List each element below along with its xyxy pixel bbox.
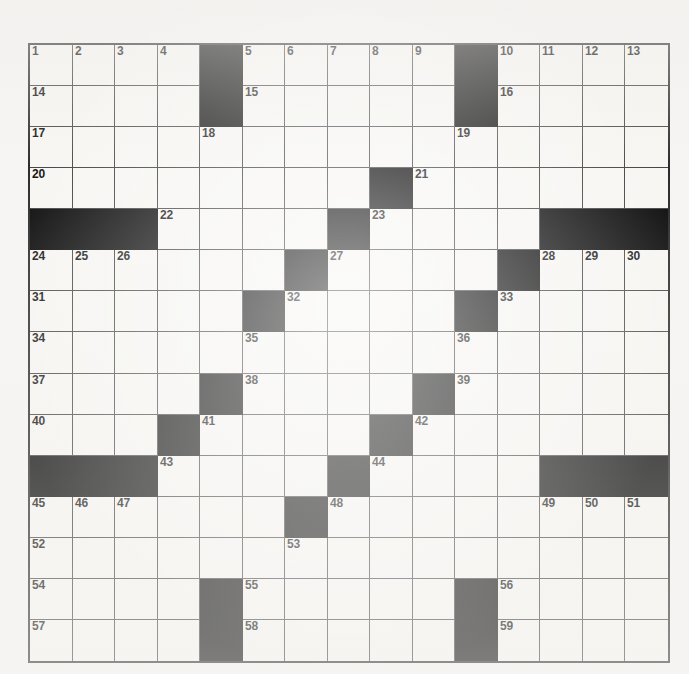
- grid-cell[interactable]: 16: [498, 86, 540, 127]
- grid-cell[interactable]: [158, 127, 200, 168]
- grid-cell[interactable]: [540, 127, 583, 168]
- grid-cell[interactable]: [243, 250, 285, 291]
- grid-cell[interactable]: [328, 579, 370, 620]
- grid-cell[interactable]: [285, 620, 328, 661]
- grid-cell[interactable]: 46: [73, 497, 115, 538]
- grid-cell[interactable]: [498, 538, 540, 579]
- grid-cell[interactable]: [498, 209, 540, 250]
- grid-cell[interactable]: [583, 538, 625, 579]
- grid-cell[interactable]: 18: [200, 127, 243, 168]
- grid-cell[interactable]: [540, 579, 583, 620]
- grid-cell[interactable]: [73, 415, 115, 456]
- grid-cell[interactable]: [455, 168, 498, 209]
- grid-cell[interactable]: [370, 579, 413, 620]
- grid-cell[interactable]: 4: [158, 45, 200, 86]
- grid-cell[interactable]: [540, 415, 583, 456]
- grid-cell[interactable]: [158, 291, 200, 332]
- grid-cell[interactable]: [413, 209, 455, 250]
- grid-cell[interactable]: 13: [625, 45, 668, 86]
- grid-cell[interactable]: [540, 620, 583, 661]
- grid-cell[interactable]: [243, 209, 285, 250]
- grid-cell[interactable]: [413, 86, 455, 127]
- grid-cell[interactable]: [455, 209, 498, 250]
- grid-cell[interactable]: [285, 332, 328, 374]
- grid-cell[interactable]: [158, 168, 200, 209]
- grid-cell[interactable]: 17: [30, 127, 73, 168]
- grid-cell[interactable]: [285, 86, 328, 127]
- grid-cell[interactable]: [200, 538, 243, 579]
- grid-cell[interactable]: [73, 620, 115, 661]
- grid-cell[interactable]: [625, 579, 668, 620]
- grid-cell[interactable]: [328, 86, 370, 127]
- grid-cell[interactable]: [285, 374, 328, 415]
- grid-cell[interactable]: [200, 168, 243, 209]
- grid-cell[interactable]: [540, 332, 583, 374]
- grid-cell[interactable]: [158, 497, 200, 538]
- grid-cell[interactable]: 47: [115, 497, 158, 538]
- grid-cell[interactable]: 1: [30, 45, 73, 86]
- grid-cell[interactable]: [73, 374, 115, 415]
- grid-cell[interactable]: 52: [30, 538, 73, 579]
- grid-cell[interactable]: 38: [243, 374, 285, 415]
- grid-cell[interactable]: [328, 291, 370, 332]
- grid-cell[interactable]: [498, 456, 540, 497]
- grid-cell[interactable]: 57: [30, 620, 73, 661]
- grid-cell[interactable]: [625, 86, 668, 127]
- grid-cell[interactable]: [73, 127, 115, 168]
- grid-cell[interactable]: [243, 456, 285, 497]
- grid-cell[interactable]: [540, 538, 583, 579]
- grid-cell[interactable]: [583, 168, 625, 209]
- grid-cell[interactable]: [115, 374, 158, 415]
- grid-cell[interactable]: [285, 415, 328, 456]
- grid-cell[interactable]: [625, 127, 668, 168]
- grid-cell[interactable]: 10: [498, 45, 540, 86]
- grid-cell[interactable]: 44: [370, 456, 413, 497]
- grid-cell[interactable]: [625, 374, 668, 415]
- grid-cell[interactable]: [285, 127, 328, 168]
- grid-cell[interactable]: [625, 332, 668, 374]
- grid-cell[interactable]: [413, 538, 455, 579]
- grid-cell[interactable]: [73, 579, 115, 620]
- grid-cell[interactable]: [583, 291, 625, 332]
- grid-cell[interactable]: [115, 291, 158, 332]
- grid-cell[interactable]: [370, 538, 413, 579]
- grid-cell[interactable]: [328, 538, 370, 579]
- grid-cell[interactable]: 34: [30, 332, 73, 374]
- crossword-grid[interactable]: 1234567891011121314151617181920212223242…: [28, 43, 670, 663]
- grid-cell[interactable]: 55: [243, 579, 285, 620]
- grid-cell[interactable]: 43: [158, 456, 200, 497]
- grid-cell[interactable]: [370, 127, 413, 168]
- grid-cell[interactable]: 6: [285, 45, 328, 86]
- grid-cell[interactable]: 33: [498, 291, 540, 332]
- grid-cell[interactable]: [200, 332, 243, 374]
- grid-cell[interactable]: [328, 374, 370, 415]
- grid-cell[interactable]: [498, 374, 540, 415]
- grid-cell[interactable]: [583, 415, 625, 456]
- grid-cell[interactable]: [540, 86, 583, 127]
- grid-cell[interactable]: 53: [285, 538, 328, 579]
- grid-cell[interactable]: [583, 579, 625, 620]
- grid-cell[interactable]: [285, 456, 328, 497]
- grid-cell[interactable]: 37: [30, 374, 73, 415]
- grid-cell[interactable]: [243, 127, 285, 168]
- grid-cell[interactable]: [328, 415, 370, 456]
- grid-cell[interactable]: 50: [583, 497, 625, 538]
- grid-cell[interactable]: [370, 497, 413, 538]
- grid-cell[interactable]: 27: [328, 250, 370, 291]
- grid-cell[interactable]: [370, 86, 413, 127]
- grid-cell[interactable]: [158, 579, 200, 620]
- grid-cell[interactable]: [200, 250, 243, 291]
- grid-cell[interactable]: 11: [540, 45, 583, 86]
- grid-cell[interactable]: [200, 291, 243, 332]
- grid-cell[interactable]: 35: [243, 332, 285, 374]
- grid-cell[interactable]: [583, 127, 625, 168]
- grid-cell[interactable]: [413, 579, 455, 620]
- grid-cell[interactable]: 45: [30, 497, 73, 538]
- grid-cell[interactable]: 14: [30, 86, 73, 127]
- grid-cell[interactable]: 39: [455, 374, 498, 415]
- grid-cell[interactable]: [455, 538, 498, 579]
- grid-cell[interactable]: 49: [540, 497, 583, 538]
- grid-cell[interactable]: [498, 332, 540, 374]
- grid-cell[interactable]: [328, 620, 370, 661]
- grid-cell[interactable]: [498, 168, 540, 209]
